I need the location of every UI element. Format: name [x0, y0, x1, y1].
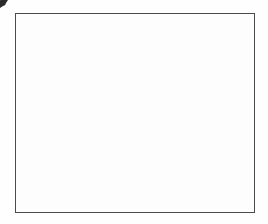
stitch-symbol-layer — [16, 14, 254, 212]
pattern-grid[interactable] — [15, 13, 255, 213]
left-center-marker — [0, 0, 6, 8]
cross-stitch-chart — [0, 0, 268, 224]
